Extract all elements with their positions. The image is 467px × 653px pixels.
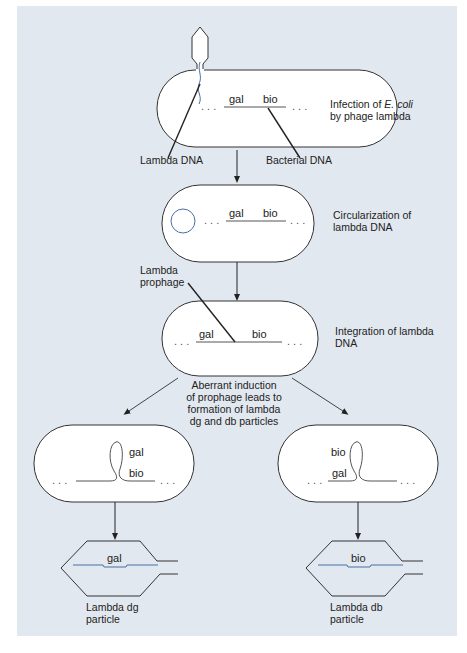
circularization-caption: Circularization of lambda DNA: [333, 209, 411, 233]
dots-left: . . .: [201, 100, 216, 112]
bacterial-dna-label: Bacterial DNA: [266, 154, 332, 166]
db-cell: [278, 425, 438, 502]
dg-cell: [34, 425, 194, 502]
lambda-prophage-label: Lambda prophage: [140, 264, 184, 288]
particle-gene-bio: bio: [351, 552, 366, 564]
label-text: Lambda db: [330, 601, 383, 613]
aberrant-induction-caption: Aberrant induction of prophage leads to …: [168, 379, 300, 427]
caption-text: Circularization of: [333, 209, 411, 221]
arrow-branch-right: [292, 378, 346, 413]
gene-bio: bio: [252, 328, 267, 340]
dg-particle-capsid: [61, 541, 160, 596]
integration-caption: Integration of lambda DNA: [335, 325, 434, 349]
gene-bio: bio: [331, 446, 346, 458]
particle-gene-gal: gal: [107, 552, 122, 564]
caption-text: dg and db particles: [190, 415, 279, 427]
infection-caption: Infection of E. coli by phage lambda: [330, 98, 413, 122]
dots-left: . . .: [204, 214, 219, 226]
gene-bio: bio: [263, 207, 278, 219]
caption-text: Integration of lambda: [335, 325, 434, 337]
dots-right: . . .: [160, 474, 175, 486]
gene-bio: bio: [129, 467, 144, 479]
caption-text: by phage lambda: [330, 110, 411, 122]
dots-right: . . .: [400, 474, 415, 486]
caption-text: lambda DNA: [333, 221, 393, 233]
caption-text: Aberrant induction: [191, 379, 276, 391]
gene-gal: gal: [129, 446, 144, 458]
gene-bio: bio: [263, 93, 278, 105]
label-text: Lambda dg: [86, 601, 139, 613]
gene-gal: gal: [229, 207, 244, 219]
label-text: particle: [86, 613, 120, 625]
caption-text: DNA: [335, 337, 357, 349]
dots-left: . . .: [52, 474, 67, 486]
dots-right: . . .: [287, 335, 302, 347]
dg-particle-dna: [73, 565, 158, 567]
gene-gal: gal: [332, 467, 347, 479]
db-particle-dna: [318, 565, 403, 567]
dots-right: . . .: [292, 100, 307, 112]
caption-species: E. coli: [384, 98, 413, 110]
caption-text: Infection of: [330, 98, 384, 110]
gene-gal: gal: [199, 328, 214, 340]
lambda-db-particle-label: Lambda db particle: [330, 601, 383, 625]
dots-right: . . .: [290, 214, 305, 226]
callout-text: Lambda: [140, 264, 178, 276]
caption-text: of prophage leads to: [186, 391, 282, 403]
label-text: particle: [330, 613, 364, 625]
gene-gal: gal: [229, 93, 244, 105]
dots-left: . . .: [307, 474, 322, 486]
dots-left: . . .: [174, 335, 189, 347]
callout-text: prophage: [140, 276, 184, 288]
lambda-dg-particle-label: Lambda dg particle: [86, 601, 139, 625]
db-particle-capsid: [306, 541, 405, 596]
caption-text: formation of lambda: [188, 403, 281, 415]
lambda-dna-label: Lambda DNA: [140, 154, 203, 166]
